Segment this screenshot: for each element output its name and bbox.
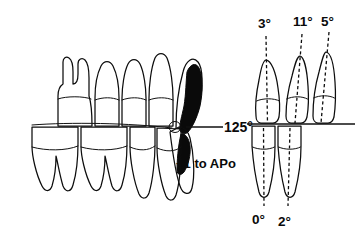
upper-incisor-2-angle-label: 11° bbox=[293, 14, 313, 29]
figure-container: +1 to APo 125° 3° 11° bbox=[0, 0, 361, 240]
apo-annotation-label: +1 to APo bbox=[176, 156, 236, 171]
lower-incisor-1-angle-label: 0° bbox=[252, 212, 265, 227]
upper-incisor-3-angle-label: 5° bbox=[321, 14, 334, 29]
interincisal-angle-label: 125° bbox=[224, 119, 253, 135]
orthodontic-diagram: +1 to APo 125° 3° 11° bbox=[0, 0, 361, 240]
lower-incisor-2-angle-label: 2° bbox=[278, 214, 291, 229]
upper-incisor-1-angle-label: 3° bbox=[258, 16, 271, 31]
